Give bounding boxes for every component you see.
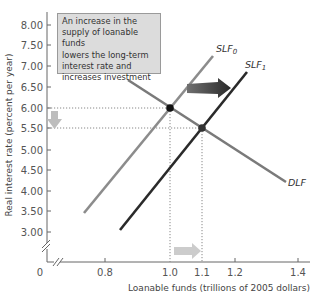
note-line: increases investment: [62, 72, 156, 83]
note-line: An increase in the: [62, 16, 156, 27]
note-line: supply of loanable funds: [62, 27, 156, 49]
y-tick-5.00: 5.00: [21, 145, 43, 156]
x-axis-title: Loanable funds (trillions of 2005 dollar…: [128, 283, 310, 293]
y-tick-6.50: 6.50: [21, 82, 43, 93]
slf1-curve: [120, 72, 247, 230]
slf0-label: SLF0: [216, 43, 238, 56]
y-axis-title: Real interest rate (percent per year): [4, 53, 14, 216]
guide-lines: [48, 108, 202, 262]
slf1-label: SLF1: [245, 59, 266, 72]
x-tick-1.2: 1.2: [227, 267, 243, 278]
y-tick-3.00: 3.00: [21, 227, 43, 238]
dlf-label: DLF: [288, 177, 307, 188]
x-tick-0.8: 0.8: [97, 267, 113, 278]
initial-equilibrium-point: [166, 104, 174, 112]
annotation-note-box: An increase in the supply of loanable fu…: [57, 13, 161, 74]
y-tick-7.50: 7.50: [21, 40, 43, 51]
y-tick-7.00: 7.00: [21, 61, 43, 72]
x-tick-1.4: 1.4: [290, 267, 306, 278]
y-tick-4.00: 4.00: [21, 186, 43, 197]
quantity-increase-arrow-icon: [174, 243, 201, 259]
rate-decrease-arrow-icon: [47, 111, 62, 129]
note-line: interest rate and: [62, 61, 156, 72]
y-tick-4.50: 4.50: [21, 165, 43, 176]
y-tick-6.00: 6.00: [21, 103, 43, 114]
y-tick-3.50: 3.50: [21, 206, 43, 217]
x-tick-1.1: 1.1: [194, 267, 210, 278]
note-line: lowers the long-term: [62, 50, 156, 61]
y-axis-break: [42, 240, 50, 252]
x-tick-1.0: 1.0: [162, 267, 178, 278]
new-equilibrium-point: [198, 124, 206, 132]
y-tick-5.50: 5.50: [21, 123, 43, 134]
x-origin-label: 0: [37, 267, 43, 278]
y-tick-8.00: 8.00: [21, 20, 43, 31]
